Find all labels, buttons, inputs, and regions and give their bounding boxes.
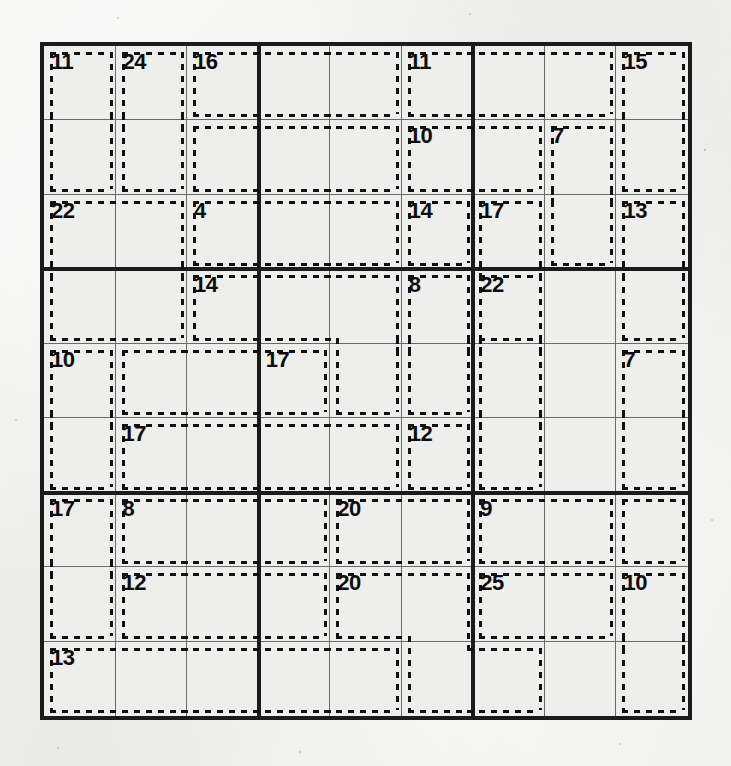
cell-r5c5[interactable] [330,344,402,418]
cell-r9c3[interactable] [187,642,259,716]
cell-r3c4[interactable] [259,195,331,269]
cell-r5c6[interactable] [402,344,474,418]
cell-r3c3[interactable] [187,195,259,269]
cell-r1c9[interactable] [616,46,688,120]
cell-r6c5[interactable] [330,418,402,492]
cell-r7c1[interactable] [44,493,116,567]
cell-r8c7[interactable] [473,567,545,641]
cell-r4c2[interactable] [116,269,188,343]
cell-r1c8[interactable] [545,46,617,120]
cell-r9c6[interactable] [402,642,474,716]
cell-r4c3[interactable] [187,269,259,343]
cell-r5c7[interactable] [473,344,545,418]
cell-r1c1[interactable] [44,46,116,120]
cell-r6c9[interactable] [616,418,688,492]
killer-sudoku-board[interactable]: 1124161115221074141713148221017717121782… [40,42,692,720]
cell-r2c9[interactable] [616,120,688,194]
cell-r4c4[interactable] [259,269,331,343]
cell-r4c1[interactable] [44,269,116,343]
cell-r7c9[interactable] [616,493,688,567]
cell-r6c7[interactable] [473,418,545,492]
cell-r4c9[interactable] [616,269,688,343]
cell-r9c4[interactable] [259,642,331,716]
cell-r6c8[interactable] [545,418,617,492]
cell-r3c7[interactable] [473,195,545,269]
cell-r3c1[interactable] [44,195,116,269]
cell-r2c5[interactable] [330,120,402,194]
cell-r9c9[interactable] [616,642,688,716]
cell-r1c5[interactable] [330,46,402,120]
cell-r4c5[interactable] [330,269,402,343]
cell-r5c2[interactable] [116,344,188,418]
cell-r6c1[interactable] [44,418,116,492]
cell-r2c4[interactable] [259,120,331,194]
cell-r9c1[interactable] [44,642,116,716]
cell-r8c8[interactable] [545,567,617,641]
cell-r9c7[interactable] [473,642,545,716]
cell-r8c5[interactable] [330,567,402,641]
cell-r8c4[interactable] [259,567,331,641]
cell-r7c3[interactable] [187,493,259,567]
cell-r9c2[interactable] [116,642,188,716]
cell-r7c4[interactable] [259,493,331,567]
cell-r7c5[interactable] [330,493,402,567]
cell-r1c2[interactable] [116,46,188,120]
cell-r7c7[interactable] [473,493,545,567]
cell-r6c4[interactable] [259,418,331,492]
cell-r3c5[interactable] [330,195,402,269]
cell-r4c6[interactable] [402,269,474,343]
cell-r2c7[interactable] [473,120,545,194]
cell-r2c3[interactable] [187,120,259,194]
cell-r7c2[interactable] [116,493,188,567]
cell-r5c3[interactable] [187,344,259,418]
cell-r8c3[interactable] [187,567,259,641]
cell-r9c5[interactable] [330,642,402,716]
cell-r2c8[interactable] [545,120,617,194]
cell-r3c6[interactable] [402,195,474,269]
cell-r1c6[interactable] [402,46,474,120]
cell-r2c2[interactable] [116,120,188,194]
cell-r5c8[interactable] [545,344,617,418]
cell-r4c8[interactable] [545,269,617,343]
cell-r3c8[interactable] [545,195,617,269]
cell-r8c1[interactable] [44,567,116,641]
cell-r1c3[interactable] [187,46,259,120]
cell-r9c8[interactable] [545,642,617,716]
cell-r3c2[interactable] [116,195,188,269]
cell-r8c6[interactable] [402,567,474,641]
cell-r3c9[interactable] [616,195,688,269]
cell-r1c7[interactable] [473,46,545,120]
cell-r2c1[interactable] [44,120,116,194]
cell-r6c6[interactable] [402,418,474,492]
cell-grid [44,46,688,716]
cell-r8c2[interactable] [116,567,188,641]
cell-r5c4[interactable] [259,344,331,418]
cell-r6c3[interactable] [187,418,259,492]
cell-r7c8[interactable] [545,493,617,567]
cell-r2c6[interactable] [402,120,474,194]
cell-r8c9[interactable] [616,567,688,641]
cell-r4c7[interactable] [473,269,545,343]
cell-r7c6[interactable] [402,493,474,567]
cell-r1c4[interactable] [259,46,331,120]
cell-r5c1[interactable] [44,344,116,418]
cell-r6c2[interactable] [116,418,188,492]
cell-r5c9[interactable] [616,344,688,418]
